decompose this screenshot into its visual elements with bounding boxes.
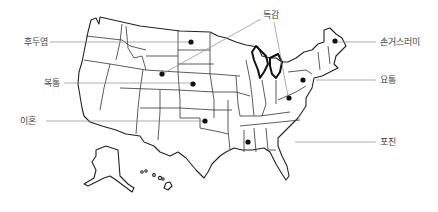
marker-dot	[159, 71, 164, 76]
alaska-outline	[84, 146, 134, 192]
label-divorce: 이혼	[20, 115, 36, 126]
label-hangnail: 손거스러미	[380, 37, 420, 47]
marker-dot	[332, 38, 337, 43]
marker-dot-2	[286, 95, 291, 100]
us-map: 후두염 복통 이혼 독감 손거스러미 요통	[0, 0, 438, 212]
marker-dot	[188, 39, 193, 44]
hawaii	[141, 170, 172, 190]
label-back-pain: 요통	[380, 75, 396, 85]
marker-dot	[190, 81, 195, 86]
marker-dot	[202, 118, 207, 123]
marker-dot	[300, 77, 305, 82]
label-herpes: 포진	[380, 137, 396, 147]
map-svg: 후두염 복통 이혼 독감 손거스러미 요통	[0, 0, 438, 212]
alaska	[84, 146, 134, 192]
label-flu: 독감	[263, 9, 279, 20]
marker-dot	[245, 139, 250, 144]
label-laryngitis: 후두염	[24, 37, 48, 47]
label-stomach-ache: 복통	[44, 78, 60, 88]
